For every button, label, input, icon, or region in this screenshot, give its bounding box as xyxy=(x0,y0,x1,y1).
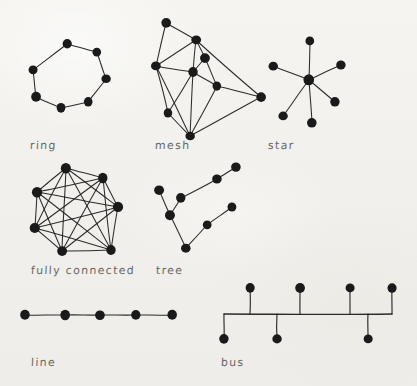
node-fully-connected-2[interactable] xyxy=(32,187,42,198)
edge-mesh-1 xyxy=(156,23,166,66)
node-dot xyxy=(84,97,93,107)
node-dot xyxy=(219,334,228,344)
node-dot xyxy=(336,60,345,69)
node-tree-7[interactable] xyxy=(227,202,236,211)
node-bus-5[interactable] xyxy=(272,334,281,343)
node-mesh-5[interactable] xyxy=(213,82,222,91)
topology-fully-connected[interactable] xyxy=(30,163,123,256)
node-mesh-2[interactable] xyxy=(200,53,210,63)
node-dot xyxy=(151,61,161,70)
node-dot xyxy=(188,67,197,77)
node-dot xyxy=(200,53,210,63)
label-bus: bus xyxy=(221,356,245,369)
node-fully-connected-6[interactable] xyxy=(106,245,115,255)
node-ring-0[interactable] xyxy=(63,39,72,49)
node-tree-4[interactable] xyxy=(231,162,241,171)
node-ring-1[interactable] xyxy=(92,48,101,57)
topology-mesh[interactable] xyxy=(151,18,266,140)
node-fully-connected-5[interactable] xyxy=(57,246,67,256)
node-dot xyxy=(165,210,175,220)
node-dot xyxy=(106,245,115,255)
node-tree-0[interactable] xyxy=(154,185,164,195)
edges-mesh xyxy=(156,23,261,136)
node-ring-6[interactable] xyxy=(29,65,38,74)
node-fully-connected-0[interactable] xyxy=(61,163,71,174)
node-mesh-4[interactable] xyxy=(188,67,197,77)
node-dot xyxy=(330,97,339,107)
node-ring-4[interactable] xyxy=(57,103,66,113)
node-tree-1[interactable] xyxy=(165,210,175,220)
node-dot xyxy=(272,334,281,343)
edge-mesh-9 xyxy=(156,66,168,113)
hub-node-star-0[interactable] xyxy=(303,74,314,85)
node-dot xyxy=(20,310,30,320)
node-line-2[interactable] xyxy=(95,310,105,320)
node-bus-3[interactable] xyxy=(387,283,396,293)
node-star-3[interactable] xyxy=(336,60,345,69)
topologies-svg xyxy=(0,0,417,386)
edge-tree-2 xyxy=(181,179,217,198)
label-line: line xyxy=(31,356,57,369)
node-ring-2[interactable] xyxy=(101,75,110,84)
node-fully-connected-3[interactable] xyxy=(113,202,123,212)
node-dot xyxy=(295,283,305,293)
topology-star[interactable] xyxy=(269,36,346,127)
topology-tree[interactable] xyxy=(154,162,241,252)
node-line-3[interactable] xyxy=(131,310,140,320)
edge-tree-5 xyxy=(186,225,207,248)
node-dot xyxy=(269,62,278,71)
node-bus-6[interactable] xyxy=(364,334,373,343)
label-ring: ring xyxy=(30,139,57,152)
node-ring-5[interactable] xyxy=(31,92,41,102)
edge-fully-connected-13 xyxy=(37,192,62,251)
topology-ring[interactable] xyxy=(29,39,111,113)
node-fully-connected-1[interactable] xyxy=(98,173,107,184)
node-line-0[interactable] xyxy=(20,310,30,320)
node-mesh-6[interactable] xyxy=(164,108,173,117)
node-dot xyxy=(231,162,241,171)
node-star-5[interactable] xyxy=(307,118,317,128)
node-mesh-7[interactable] xyxy=(256,92,266,102)
node-bus-0[interactable] xyxy=(246,283,255,293)
node-dot xyxy=(213,82,222,91)
node-dot xyxy=(29,65,38,74)
node-star-4[interactable] xyxy=(330,97,339,107)
node-dot xyxy=(60,310,70,321)
node-star-1[interactable] xyxy=(305,36,314,45)
node-dot xyxy=(113,202,123,212)
node-ring-3[interactable] xyxy=(84,97,93,107)
node-dot xyxy=(31,92,41,102)
node-star-6[interactable] xyxy=(278,112,287,121)
node-mesh-3[interactable] xyxy=(151,61,161,70)
node-dot xyxy=(191,36,201,45)
node-tree-6[interactable] xyxy=(203,220,212,229)
node-dot xyxy=(364,334,373,343)
node-tree-5[interactable] xyxy=(181,244,191,253)
edge-fully-connected-20 xyxy=(62,250,111,251)
node-star-2[interactable] xyxy=(269,62,278,71)
node-tree-3[interactable] xyxy=(212,174,222,183)
node-line-1[interactable] xyxy=(60,310,70,321)
node-tree-2[interactable] xyxy=(176,193,185,203)
node-line-4[interactable] xyxy=(167,310,177,320)
node-bus-2[interactable] xyxy=(346,284,355,293)
node-bus-1[interactable] xyxy=(295,283,305,293)
edge-ring-6 xyxy=(33,44,67,70)
topology-line[interactable] xyxy=(20,310,177,321)
edge-mesh-15 xyxy=(168,113,190,136)
edge-mesh-17 xyxy=(156,66,190,136)
node-bus-4[interactable] xyxy=(219,334,228,344)
node-dot xyxy=(154,185,164,195)
nodes-ring xyxy=(29,39,111,113)
node-fully-connected-4[interactable] xyxy=(30,223,40,233)
node-mesh-0[interactable] xyxy=(161,18,171,28)
nodes-star xyxy=(269,36,346,127)
topology-bus[interactable] xyxy=(219,283,396,344)
node-dot xyxy=(30,223,40,233)
nodes-bus xyxy=(219,283,396,344)
node-mesh-1[interactable] xyxy=(191,36,201,45)
edge-mesh-11 xyxy=(168,72,193,113)
edge-fully-connected-0 xyxy=(66,168,103,178)
edge-tree-4 xyxy=(170,215,186,248)
node-dot xyxy=(256,92,266,102)
